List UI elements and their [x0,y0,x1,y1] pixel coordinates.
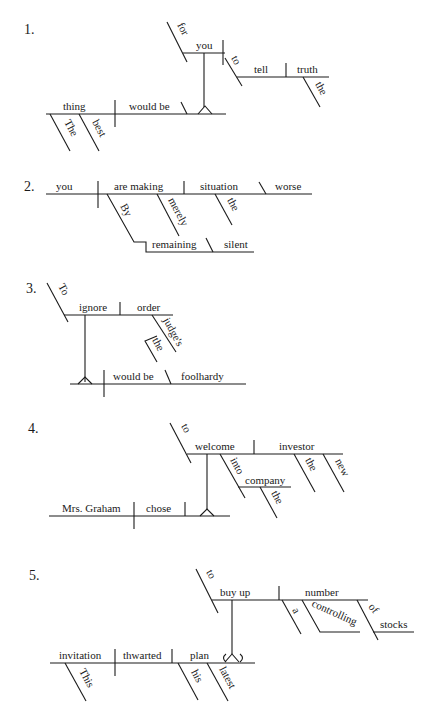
word-subject-mod: This [77,666,97,689]
word-inf-object: truth [297,63,318,75]
diagram-1: 1. thing would be The best for you to te… [24,20,330,151]
diagram-number: 5. [29,568,40,583]
word-prep-object: stocks [380,618,408,630]
word-prep: for [175,20,192,37]
word-subject: Mrs. Graham [62,502,121,514]
word-object-mod: his [189,667,206,684]
word-inf-marker: to [204,567,219,581]
diagram-2: 2. you are making situation worse the me… [24,179,312,252]
diagram-number: 3. [26,281,37,296]
complement-divider [259,182,266,194]
sentence-diagrams: 1. thing would be The best for you to te… [0,0,422,721]
word-subject-mod: best [90,117,109,138]
word-inf-subject: you [196,39,213,51]
diagram-4: 4. to welcome investor the new into comp… [28,421,352,529]
word-inf-object: investor [279,440,315,452]
word-complement: worse [275,180,301,192]
word-inf-verb: welcome [195,440,235,452]
diagram-number: 2. [24,179,35,194]
word-inf-marker: To [56,281,72,297]
pedestal [198,106,212,114]
word-verb: chose [146,502,171,514]
word-inf-object: order [137,301,161,313]
complement-divider [165,370,171,384]
word-object-mod: the [303,455,320,473]
word-verb: are making [114,180,164,192]
diagram-3: 3. To ignore order judge's the would be … [26,281,246,397]
word-inf-marker: to [179,421,194,435]
word-inf-verb: buy up [220,586,251,598]
word-gerund-complement: silent [224,238,248,250]
word-verb: thwarted [123,649,162,661]
pedestal [225,654,239,662]
word-inf-verb: ignore [79,301,107,313]
word-prep-object: company [245,474,286,486]
word-inf-verb: tell [254,63,268,75]
diagram-number: 4. [28,421,39,436]
word-verb: would be [129,100,170,112]
word-subject: you [56,180,73,192]
word-object: situation [200,180,238,192]
word-inf-object-mod: controlling [310,597,359,628]
parenthesis-right [240,654,243,662]
word-inf-marker: to [229,53,244,67]
word-prep-object-mod: the [269,488,286,506]
word-complement: foolhardy [181,370,224,382]
word-adverb: merely [166,195,191,228]
diagram-5: 5. to buy up number a controlling of sto… [29,567,414,701]
pedestal [200,509,214,516]
word-subject-mod: The [62,117,81,138]
complement-divider [206,238,213,252]
word-object: plan [190,649,209,661]
word-prep: By [118,201,135,218]
word-prep: of [366,601,381,616]
word-object-mod: the [313,79,330,97]
word-object-mod: new [333,456,352,478]
word-object-mod: the [225,195,242,213]
word-verb: would be [113,370,154,382]
word-subject: invitation [59,649,102,661]
modifier-line [282,600,301,634]
diagram-number: 1. [24,22,35,37]
complement-divider [181,102,187,114]
word-inf-object-mod: a [290,605,303,615]
word-subject: thing [63,100,86,112]
word-gerund: remaining [152,238,197,250]
word-inf-object: number [305,586,339,598]
